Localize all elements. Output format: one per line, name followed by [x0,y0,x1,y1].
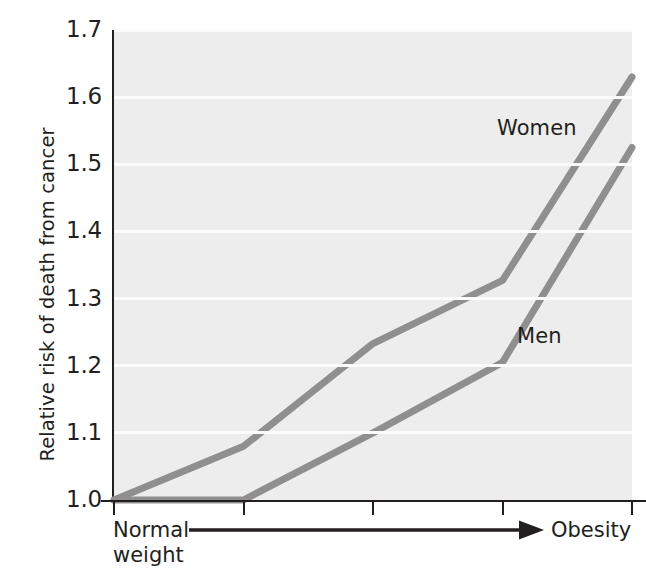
gridline [114,29,632,32]
gridline [114,364,632,367]
x-axis-tick [502,502,504,515]
y-axis-tick-label: 1.1 [46,421,102,444]
x-axis-end-label: Obesity [551,518,631,543]
y-axis-tick-label: 1.4 [46,219,102,242]
y-axis-tick-label: 1.6 [46,85,102,108]
gridline [114,297,632,300]
y-axis-tick-label: 1.5 [46,152,102,175]
x-axis-tick [631,502,633,515]
cancer-risk-line-chart: Relative risk of death from cancer 1.01.… [0,0,646,586]
x-axis-tick [113,502,115,515]
y-axis-tick-label: 1.3 [46,287,102,310]
series-lines-svg [114,30,632,500]
gridline [114,163,632,166]
y-axis-tick-label: 1.0 [46,488,102,511]
x-axis-start-label-line2: weight [113,543,189,568]
gridline [114,96,632,99]
gridline [114,230,632,233]
x-axis-annotation: Normal weight Obesity [0,516,646,582]
x-axis-tick [243,502,245,515]
x-axis-start-label: Normal weight [113,518,189,568]
y-axis-tick-labels: 1.01.11.21.31.41.51.61.7 [40,0,102,586]
x-axis-tick [372,502,374,515]
series-label-men: Men [517,324,562,348]
plot-area [114,30,632,500]
y-axis-tick-label: 1.7 [46,18,102,41]
right-arrow-icon [189,516,544,544]
gridline [114,431,632,434]
x-axis-start-label-line1: Normal [113,518,189,543]
series-label-women: Women [497,116,577,140]
y-axis-tick-label: 1.2 [46,354,102,377]
